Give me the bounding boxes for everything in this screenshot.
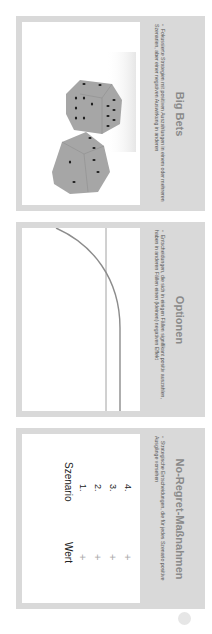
slide-optionen: Optionen •Entscheidungen, die sich in ei…: [16, 222, 205, 417]
bullet-icon: •: [160, 230, 166, 232]
plus-icon: +: [107, 554, 119, 560]
scenario-table: Szenario Wert 1. 2. 3. 4. + + + +: [54, 462, 134, 582]
slide-big-bets: Big Bets •Fokussierte Strategien mit pos…: [16, 16, 205, 211]
slide-bullet: •Strategische Entscheidungen, die für je…: [153, 436, 166, 602]
page-indicator-icon: [178, 612, 191, 625]
plus-icon: +: [122, 554, 134, 560]
slide-content-area: Szenario Wert 1. 2. 3. 4. + + + +: [22, 434, 140, 603]
slide-caption: Big Bets •Fokussierte Strategien mit pos…: [142, 16, 205, 211]
bullet-icon: •: [160, 24, 166, 26]
slide-caption: No-Regret-Maßnahmen •Strategische Entsch…: [142, 428, 205, 609]
slide-title: No-Regret-Maßnahmen: [174, 436, 186, 602]
slide-no-regret: Szenario Wert 1. 2. 3. 4. + + + + No-Reg…: [16, 428, 205, 609]
plus-icon: +: [92, 554, 104, 560]
table-cell-scenario: 2.: [93, 484, 103, 492]
slide-content-area: [22, 228, 140, 411]
table-cell-scenario: 1.: [78, 484, 88, 492]
dice-icon: [22, 22, 140, 205]
bullet-icon: •: [160, 436, 166, 438]
payoff-curve-chart: [22, 228, 140, 411]
table-header-wert: Wert: [63, 542, 74, 563]
slide-bullet: •Entscheidungen, die sich in einigen Fäl…: [153, 230, 166, 410]
table-cell-scenario: 4.: [123, 484, 133, 492]
slide-content-area: [22, 22, 140, 205]
plus-icon: +: [77, 554, 89, 560]
slide-title: Big Bets: [174, 24, 186, 204]
table-header-szenario: Szenario: [63, 462, 74, 501]
table-cell-scenario: 3.: [108, 484, 118, 492]
slide-bullet: •Fokussierte Strategien mit positiven Au…: [153, 24, 166, 204]
slide-title: Optionen: [174, 230, 186, 410]
slide-caption: Optionen •Entscheidungen, die sich in ei…: [142, 222, 205, 417]
